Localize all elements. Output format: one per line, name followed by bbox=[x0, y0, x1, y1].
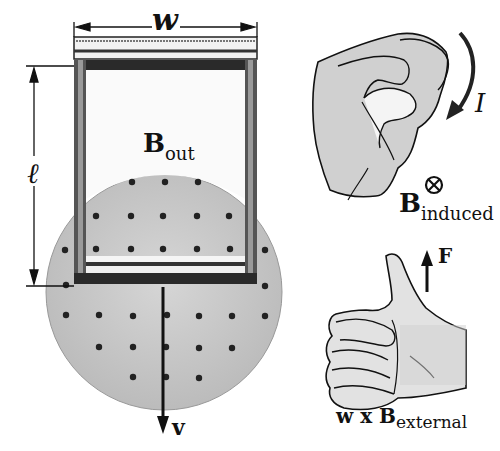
sliding-bar bbox=[74, 37, 257, 59]
curled-hand-illustration bbox=[313, 33, 449, 200]
force-label: F bbox=[438, 244, 452, 268]
velocity-label: v bbox=[172, 414, 185, 440]
length-label: ℓ bbox=[27, 157, 39, 190]
cross-product-label: w x Bexternal bbox=[336, 404, 467, 428]
b-out-main: B bbox=[143, 128, 165, 158]
force-arrow bbox=[421, 250, 433, 292]
b-induced-sub: induced bbox=[421, 203, 494, 224]
current-label: I bbox=[475, 88, 485, 118]
cross-product-prefix: w x B bbox=[336, 404, 396, 428]
width-label: w bbox=[152, 2, 178, 37]
b-induced-main: B bbox=[399, 188, 421, 218]
thumbs-up-hand-illustration bbox=[326, 254, 466, 410]
b-out-sub: out bbox=[165, 143, 195, 164]
b-induced-label: Binduced bbox=[399, 188, 494, 218]
cross-product-sub: external bbox=[396, 412, 467, 432]
diagram-canvas: w ℓ Bout v I Binduced F w x Bexternal bbox=[0, 0, 500, 451]
diagram-svg bbox=[0, 0, 500, 451]
current-arrow bbox=[446, 33, 473, 120]
b-out-label: Bout bbox=[143, 128, 195, 158]
